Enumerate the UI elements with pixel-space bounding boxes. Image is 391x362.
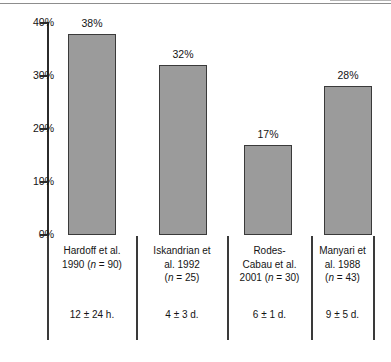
x-label-manyari: Manyari et al. 1988 (n = 43)	[312, 244, 373, 285]
plot-area: 40% 30% 20% 10% 0% 38% 32% 17% 28%	[0, 0, 391, 362]
bar-hardoff	[68, 34, 116, 235]
y-tick-mark-40	[40, 22, 47, 24]
y-tick-20: 20%	[0, 128, 54, 130]
x-label-rodes-cabau: Rodes- Cabau et al. 2001 (n = 30)	[228, 244, 311, 285]
y-tick-mark-30	[40, 75, 47, 77]
x-label-iskandrian: Iskandrian et al. 1992 (n = 25)	[137, 244, 227, 285]
bar-value-iskandrian: 32%	[159, 49, 207, 60]
bar-rodes-cabau	[244, 145, 292, 236]
x-label-manyari-line3: (n = 43)	[312, 271, 373, 285]
x-label-manyari-line2: al. 1988	[312, 258, 373, 272]
y-tick-label-30: 30%	[20, 70, 54, 80]
y-tick-10: 10%	[0, 181, 54, 183]
x-label-iskandrian-line2: al. 1992	[137, 258, 227, 272]
figure-container: 40% 30% 20% 10% 0% 38% 32% 17% 28%	[0, 0, 391, 362]
bar-iskandrian	[159, 65, 207, 235]
x-label-hardoff-line1: Hardoff et al.	[48, 244, 136, 258]
x-label-iskandrian-line1: Iskandrian et	[137, 244, 227, 258]
x-label-rodes-cabau-line1: Rodes-	[228, 244, 311, 258]
bar-value-hardoff: 38%	[68, 18, 116, 29]
y-tick-mark-10	[40, 181, 47, 183]
bar-manyari	[324, 86, 372, 235]
y-tick-30: 30%	[0, 75, 54, 77]
timing-manyari: 9 ± 5 d.	[312, 309, 373, 321]
bar-value-manyari: 28%	[324, 70, 372, 81]
y-tick-label-10: 10%	[20, 176, 54, 186]
y-tick-40: 40%	[0, 22, 54, 24]
timing-hardoff: 12 ± 24 h.	[48, 309, 136, 321]
y-tick-mark-0	[40, 234, 47, 236]
x-label-hardoff-line2: 1990 (n = 90)	[48, 258, 136, 272]
x-label-hardoff: Hardoff et al. 1990 (n = 90)	[48, 244, 136, 271]
timing-rodes-cabau: 6 ± 1 d.	[228, 309, 311, 321]
y-tick-mark-20	[40, 128, 47, 130]
y-tick-label-40: 40%	[20, 17, 54, 27]
y-tick-label-20: 20%	[20, 123, 54, 133]
x-label-manyari-line1: Manyari et	[312, 244, 373, 258]
bar-value-rodes-cabau: 17%	[244, 129, 292, 140]
x-label-rodes-cabau-line2: Cabau et al.	[228, 258, 311, 272]
group-separator-right	[373, 236, 375, 340]
x-label-rodes-cabau-line3: 2001 (n = 30)	[228, 271, 311, 285]
y-tick-0: 0%	[0, 234, 54, 236]
y-tick-label-0: 0%	[20, 229, 54, 239]
x-label-iskandrian-line3: (n = 25)	[137, 271, 227, 285]
timing-iskandrian: 4 ± 3 d.	[137, 309, 227, 321]
